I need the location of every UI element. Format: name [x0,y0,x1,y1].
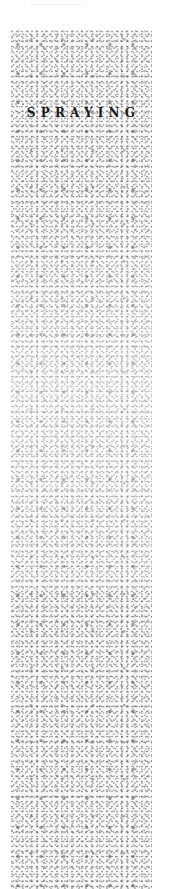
faint-top-rule [30,0,85,5]
panel-title: SPRAYING [11,106,152,120]
spray-texture-panel: SPRAYING [11,30,152,889]
texture-fade-overlay [11,190,152,590]
